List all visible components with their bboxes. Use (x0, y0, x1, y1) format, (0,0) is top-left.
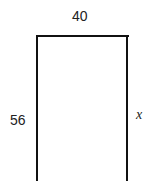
diagram-canvas: 40 56 x (0, 0, 156, 181)
rectangle-top-edge (36, 35, 129, 37)
rectangle-left-edge (36, 35, 38, 181)
right-side-variable-label: x (136, 107, 142, 123)
left-side-length-label: 56 (10, 112, 26, 128)
rectangle-right-edge (126, 35, 128, 181)
top-side-length-label: 40 (72, 8, 88, 24)
